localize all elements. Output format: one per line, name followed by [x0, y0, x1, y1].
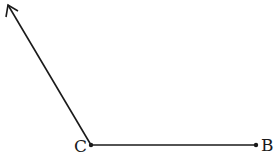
angle-drawing — [0, 0, 277, 163]
label-c: C — [74, 138, 87, 155]
label-b: B — [261, 137, 274, 154]
angle-diagram: C B — [0, 0, 277, 163]
ray-ca — [8, 5, 91, 145]
point-c — [89, 143, 93, 147]
point-b — [254, 143, 258, 147]
